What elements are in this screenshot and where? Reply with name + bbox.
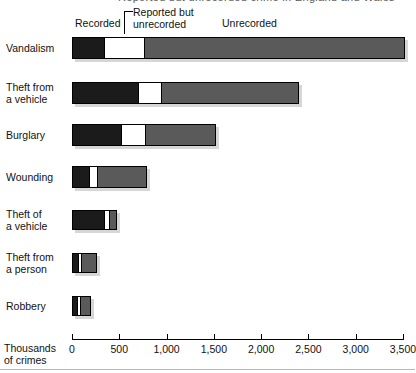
bar-segment-unrecorded[interactable]	[162, 83, 298, 103]
stacked-bar[interactable]	[72, 82, 299, 104]
x-axis-tick-label: 1,500	[201, 343, 227, 355]
x-axis-tick	[403, 334, 404, 340]
bar-segment-unrecorded[interactable]	[81, 297, 90, 315]
bar-segment-recorded[interactable]	[73, 211, 104, 229]
bar-segment-recorded[interactable]	[73, 125, 121, 145]
x-axis-tick-label: 2,000	[248, 343, 274, 355]
bar-row-label: Burglary	[6, 120, 68, 150]
x-axis-line	[72, 339, 403, 340]
x-axis-tick-label: 3,000	[343, 343, 369, 355]
bar-row-label: Theft from a vehicle	[6, 78, 68, 108]
x-axis-tick-label: 0	[69, 343, 75, 355]
x-axis-tick	[356, 334, 357, 340]
stacked-bar[interactable]	[72, 37, 405, 59]
bar-segment-unrecorded[interactable]	[146, 125, 215, 145]
bar-segment-recorded[interactable]	[73, 83, 138, 103]
bar-segment-reported-but-unrecorded[interactable]	[104, 38, 145, 58]
bar-segment-unrecorded[interactable]	[82, 254, 96, 272]
bar-row: Wounding	[0, 162, 415, 192]
x-axis-title: Thousands of crimes	[4, 342, 56, 366]
x-axis-tick	[167, 334, 168, 340]
stacked-bar[interactable]	[72, 210, 117, 230]
bar-segment-recorded[interactable]	[73, 38, 104, 58]
bar-row-label: Theft of a vehicle	[6, 205, 68, 235]
bar-row: Theft from a vehicle	[0, 78, 415, 108]
bar-row: Robbery	[0, 291, 415, 321]
x-axis-tick-label: 1,000	[153, 343, 179, 355]
x-axis-tick	[214, 334, 215, 340]
stacked-bar[interactable]	[72, 124, 216, 146]
bar-segment-reported-but-unrecorded[interactable]	[121, 125, 147, 145]
x-axis-tick	[308, 334, 309, 340]
stacked-bar[interactable]	[72, 166, 147, 188]
bottom-rule	[0, 369, 415, 370]
x-axis-tick-label: 500	[111, 343, 129, 355]
bar-row-label: Wounding	[6, 162, 68, 192]
bar-row-label: Theft from a person	[6, 248, 68, 278]
bar-segment-reported-but-unrecorded[interactable]	[89, 167, 98, 187]
bar-segment-unrecorded[interactable]	[110, 211, 116, 229]
bar-row-label: Vandalism	[6, 33, 68, 63]
bar-segment-unrecorded[interactable]	[98, 167, 145, 187]
bar-segment-recorded[interactable]	[73, 167, 89, 187]
x-axis-tick	[261, 334, 262, 340]
stacked-bar[interactable]	[72, 296, 91, 316]
bar-row: Vandalism	[0, 33, 415, 63]
bar-row: Theft of a vehicle	[0, 205, 415, 235]
x-axis-tick	[119, 334, 120, 340]
bar-segment-unrecorded[interactable]	[145, 38, 404, 58]
x-axis-tick-label: 3,500	[390, 343, 416, 355]
bar-row-label: Robbery	[6, 291, 68, 321]
bar-segment-reported-but-unrecorded[interactable]	[138, 83, 162, 103]
x-axis-tick	[72, 334, 73, 340]
bar-row: Burglary	[0, 120, 415, 150]
stacked-bar[interactable]	[72, 253, 97, 273]
bar-row: Theft from a person	[0, 248, 415, 278]
x-axis-tick-label: 2,500	[295, 343, 321, 355]
